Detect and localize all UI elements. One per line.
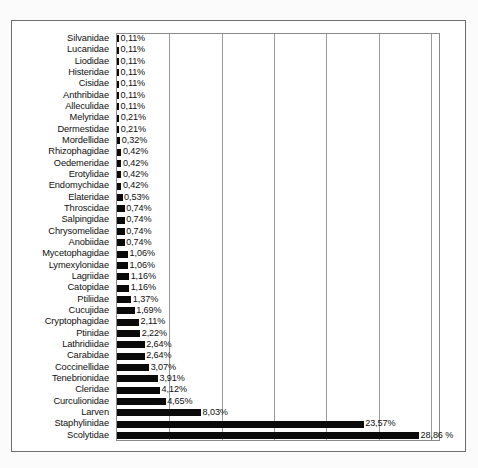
bar-value-label: 0,32% <box>122 136 147 145</box>
category-label: Salpingidae <box>62 215 110 224</box>
category-label: Cryptophagidae <box>45 317 109 326</box>
bar <box>117 47 119 54</box>
category-label: Silvanidae <box>67 34 109 43</box>
category-label: Elateridae <box>68 193 109 202</box>
bar-value-label: 0,42% <box>123 181 148 190</box>
category-label: Cucujidae <box>69 306 109 315</box>
bar-value-label: 0,11% <box>121 57 146 66</box>
bar-value-label: 1,16% <box>131 283 156 292</box>
category-label: Throscidae <box>64 204 109 213</box>
bar-value-label: 0,11% <box>121 34 146 43</box>
bar <box>117 353 145 360</box>
category-label: Lucanidae <box>67 45 109 54</box>
category-label: Larven <box>81 408 109 417</box>
bar <box>117 364 149 371</box>
bar <box>117 285 129 292</box>
category-label: Anobiidae <box>69 238 109 247</box>
bar-value-label: 0,42% <box>123 170 148 179</box>
bar <box>117 296 131 303</box>
bar-value-label: 1,69% <box>136 306 161 315</box>
bar-value-label: 0,21% <box>121 125 146 134</box>
bar <box>117 92 119 99</box>
bar <box>117 307 135 314</box>
bar <box>117 160 121 167</box>
bar-value-label: 2,64% <box>146 351 171 360</box>
bar <box>117 421 364 428</box>
category-label: Catopidae <box>68 283 110 292</box>
bar <box>117 103 119 110</box>
bar-value-label: 0,21% <box>121 113 146 122</box>
category-label: Ptiliidae <box>77 295 109 304</box>
category-label: Lagriidae <box>72 272 109 281</box>
category-label: Tenebrionidae <box>52 374 109 383</box>
category-label: Oedemeridae <box>54 159 109 168</box>
bar-value-label: 3,07% <box>151 363 176 372</box>
category-label: Liodidae <box>75 57 109 66</box>
bar-value-label: 8,03% <box>203 408 228 417</box>
bar-value-label: 0,74% <box>126 204 151 213</box>
bar-value-label: 4,12% <box>162 385 187 394</box>
bar-value-label: 1,06% <box>130 261 155 270</box>
bar <box>117 217 125 224</box>
bars-group: 0,11%0,11%0,11%0,11%0,11%0,11%0,11%0,21%… <box>116 33 440 441</box>
bar-value-label: 2,64% <box>146 340 171 349</box>
category-label: Chrysomelidae <box>48 227 109 236</box>
category-label: Cleridae <box>75 385 109 394</box>
bar-value-label: 0,74% <box>126 227 151 236</box>
bar <box>117 205 125 212</box>
bar-value-label: 3,91% <box>159 374 184 383</box>
bar <box>117 183 121 190</box>
bar-value-label: 2,22% <box>142 329 167 338</box>
bar-value-label: 2,11% <box>141 317 166 326</box>
bar <box>117 432 419 439</box>
bar-value-label: 1,37% <box>133 295 158 304</box>
bar-value-label: 0,11% <box>121 45 146 54</box>
bar <box>117 262 128 269</box>
bar <box>117 273 129 280</box>
bar <box>117 409 201 416</box>
category-label: Cisidae <box>79 79 109 88</box>
bar-value-label: 0,74% <box>126 215 151 224</box>
bar <box>117 81 119 88</box>
category-label: Alleculidae <box>65 102 109 111</box>
bar <box>117 115 119 122</box>
bar <box>117 126 119 133</box>
category-label: Anthribidae <box>63 91 109 100</box>
chart-figure: SilvanidaeLucanidaeLiodidaeHisteridaeCis… <box>0 0 478 468</box>
category-label: Lymexylonidae <box>49 261 109 270</box>
bar <box>117 319 139 326</box>
category-label: Dermestidae <box>57 125 109 134</box>
category-label: Erotylidae <box>69 170 109 179</box>
bar-value-label: 0,11% <box>121 102 146 111</box>
category-label: Melyridae <box>70 113 109 122</box>
bar-value-label: 0,74% <box>126 238 151 247</box>
category-label: Ptinidae <box>76 329 109 338</box>
bar <box>117 69 119 76</box>
bar-value-label: 0,11% <box>121 79 146 88</box>
bar <box>117 398 166 405</box>
category-label: Endomychidae <box>49 181 109 190</box>
category-label: Carabidae <box>67 351 109 360</box>
bar <box>117 137 120 144</box>
bar <box>117 149 121 156</box>
bar-value-label: 23,57% <box>365 419 395 428</box>
bar-value-label: 1,16% <box>131 272 156 281</box>
category-label: Curculionidae <box>53 397 109 406</box>
bar-value-label: 0,11% <box>121 68 146 77</box>
category-label: Scolytidae <box>67 431 109 440</box>
bar-value-label: 28,86 % <box>421 431 454 440</box>
bar <box>117 171 121 178</box>
bar-value-label: 0,42% <box>123 147 148 156</box>
bar <box>117 35 119 42</box>
category-label: Mordellidae <box>62 136 109 145</box>
bar <box>117 194 123 201</box>
category-label: Mycetophagidae <box>42 249 109 258</box>
category-label: Histeridae <box>68 68 109 77</box>
category-label: Rhizophagidae <box>48 147 109 156</box>
bar <box>117 228 125 235</box>
bar <box>117 58 119 65</box>
bar-value-label: 1,06% <box>130 249 155 258</box>
bar <box>117 251 128 258</box>
bar <box>117 330 140 337</box>
bar-value-label: 4,65% <box>167 397 192 406</box>
